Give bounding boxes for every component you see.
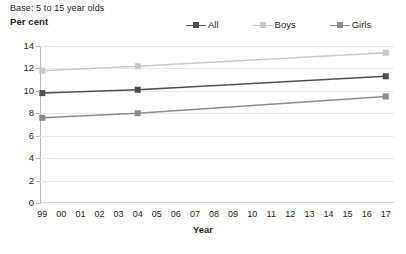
series-line	[42, 96, 386, 117]
x-axis-tick-label: 17	[381, 209, 391, 219]
data-point-marker	[135, 87, 141, 93]
legend-item-label: Girls	[352, 20, 372, 30]
series-boys	[39, 50, 389, 74]
chart-figure: Base: 5 to 15 year olds Per cent AllBoys…	[0, 0, 406, 254]
y-axis-tick-label: 10	[12, 86, 34, 96]
x-axis-tick-label: 00	[56, 209, 66, 219]
x-axis-title: Year	[0, 224, 406, 235]
y-axis-tick	[36, 46, 40, 47]
x-axis-tick-label: 01	[75, 209, 85, 219]
y-axis-labels: 14121086420	[8, 0, 34, 254]
legend-item-label: All	[208, 20, 219, 30]
legend-marker-icon	[253, 21, 273, 30]
x-axis-tick-label: 07	[190, 209, 200, 219]
legend-item-girls[interactable]: Girls	[330, 20, 372, 30]
data-point-marker	[39, 90, 45, 96]
x-axis-labels: 99000102030405060708091011121314151617	[40, 209, 394, 223]
y-axis-tick	[36, 68, 40, 69]
y-axis-tick	[36, 203, 40, 204]
y-axis-tick	[36, 181, 40, 182]
x-axis-tick-label: 13	[304, 209, 314, 219]
x-axis-tick-label: 05	[152, 209, 162, 219]
y-axis-tick-label: 0	[12, 198, 34, 208]
series-line	[42, 76, 386, 93]
x-axis-tick-label: 06	[171, 209, 181, 219]
x-axis-tick-label: 04	[133, 209, 143, 219]
x-axis-tick-label: 16	[362, 209, 372, 219]
y-axis-tick-label: 14	[12, 41, 34, 51]
series-girls	[39, 93, 389, 120]
data-point-marker	[383, 50, 389, 56]
series-all	[39, 73, 389, 96]
series-line	[42, 53, 386, 71]
data-point-marker	[135, 63, 141, 69]
y-axis-tick	[36, 91, 40, 92]
x-axis-tick-label: 15	[343, 209, 353, 219]
legend-marker-icon	[330, 21, 350, 30]
legend-item-boys[interactable]: Boys	[253, 20, 296, 30]
legend-item-label: Boys	[275, 20, 296, 30]
y-axis-tick	[36, 136, 40, 137]
x-axis-tick-label: 08	[209, 209, 219, 219]
x-axis-tick-label: 14	[324, 209, 334, 219]
x-axis-tick-label: 10	[247, 209, 257, 219]
y-axis-tick-label: 6	[12, 131, 34, 141]
data-point-marker	[383, 93, 389, 99]
y-axis-tick	[36, 158, 40, 159]
y-axis-tick-label: 12	[12, 63, 34, 73]
legend-item-all[interactable]: All	[186, 20, 219, 30]
data-point-marker	[135, 110, 141, 116]
y-axis-tick-label: 4	[12, 153, 34, 163]
x-axis-tick-label: 02	[95, 209, 105, 219]
x-axis-tick-label: 09	[228, 209, 238, 219]
data-point-marker	[39, 68, 45, 74]
legend-marker-icon	[186, 21, 206, 30]
series-canvas	[40, 46, 394, 203]
data-point-marker	[383, 73, 389, 79]
x-axis-tick-label: 11	[267, 209, 276, 219]
y-axis-tick-label: 2	[12, 176, 34, 186]
y-axis-tick	[36, 113, 40, 114]
plot-area	[40, 46, 394, 203]
x-axis-tick-label: 03	[114, 209, 124, 219]
y-axis-tick-label: 8	[12, 108, 34, 118]
x-axis-tick-label: 99	[37, 209, 47, 219]
data-point-marker	[39, 115, 45, 121]
x-axis-tick-label: 12	[285, 209, 295, 219]
chart-legend: AllBoysGirls	[186, 18, 371, 32]
